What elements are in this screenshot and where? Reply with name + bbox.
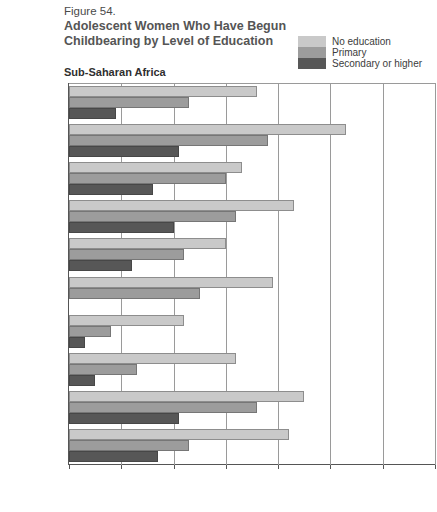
- bar-burkina-faso-secondary: [69, 108, 116, 119]
- bar-group-ghana: Ghana: [69, 159, 435, 197]
- bar-group-niger: Niger: [69, 274, 435, 312]
- bar-burkina-faso-no-education: [69, 86, 257, 97]
- legend-swatch-no-education: [298, 36, 326, 47]
- chart-title-line-1: Adolescent Women Who Have Begun: [64, 19, 364, 34]
- region-heading: Sub-Saharan Africa: [64, 66, 166, 78]
- chart-legend: No educationPrimarySecondary or higher: [298, 36, 422, 69]
- bar-group-zimbabwe: Zimbabwe: [69, 427, 435, 465]
- bar-zimbabwe-no-education: [69, 429, 289, 440]
- x-tick-mark-0: [69, 465, 70, 469]
- bar-niger-no-education: [69, 277, 273, 288]
- x-tick-mark-10: [121, 465, 122, 469]
- chart-plot-area: 010203040506070Burkina FasoCameroonGhana…: [68, 83, 436, 465]
- bar-zimbabwe-primary: [69, 440, 189, 451]
- bar-senegal-primary: [69, 364, 137, 375]
- bar-group-kenya: Kenya: [69, 236, 435, 274]
- legend-label-column: No educationPrimarySecondary or higher: [332, 36, 422, 69]
- bar-senegal-secondary: [69, 375, 95, 386]
- bar-zambia-primary: [69, 402, 257, 413]
- figure-number: Figure 54.: [64, 4, 364, 18]
- bar-malawi-secondary: [69, 222, 174, 233]
- bar-malawi-no-education: [69, 200, 294, 211]
- x-tick-mark-60: [383, 465, 384, 469]
- bar-ghana-no-education: [69, 162, 242, 173]
- bar-cameroon-primary: [69, 135, 268, 146]
- bar-ghana-primary: [69, 173, 226, 184]
- bar-kenya-no-education: [69, 238, 226, 249]
- x-tick-mark-50: [330, 465, 331, 469]
- bar-group-senegal: Senegal: [69, 350, 435, 388]
- legend-swatch-primary: [298, 47, 326, 58]
- bar-ghana-secondary: [69, 184, 153, 195]
- legend-label-2: Secondary or higher: [332, 58, 422, 69]
- bar-zambia-no-education: [69, 391, 304, 402]
- bar-malawi-primary: [69, 211, 236, 222]
- bar-group-burkina-faso: Burkina Faso: [69, 83, 435, 121]
- bar-zambia-secondary: [69, 413, 179, 424]
- bar-niger-primary: [69, 288, 200, 299]
- bar-rwanda-no-education: [69, 315, 184, 326]
- legend-label-1: Primary: [332, 47, 422, 58]
- bar-rwanda-primary: [69, 326, 111, 337]
- bar-zimbabwe-secondary: [69, 451, 158, 462]
- x-tick-mark-30: [226, 465, 227, 469]
- x-tick-mark-40: [278, 465, 279, 469]
- legend-label-0: No education: [332, 36, 422, 47]
- bar-senegal-no-education: [69, 353, 236, 364]
- legend-swatch-secondary: [298, 58, 326, 69]
- bar-kenya-primary: [69, 249, 184, 260]
- bar-group-malawi: Malawi: [69, 198, 435, 236]
- bar-cameroon-no-education: [69, 124, 346, 135]
- x-tick-mark-20: [174, 465, 175, 469]
- bar-kenya-secondary: [69, 260, 132, 271]
- bar-burkina-faso-primary: [69, 97, 189, 108]
- bar-cameroon-secondary: [69, 146, 179, 157]
- legend-swatch-column: [298, 36, 326, 69]
- bar-group-rwanda: Rwanda: [69, 312, 435, 350]
- bar-rwanda-secondary: [69, 337, 85, 348]
- x-tick-mark-70: [435, 465, 436, 469]
- bar-group-zambia: Zambia: [69, 389, 435, 427]
- bar-group-cameroon: Cameroon: [69, 121, 435, 159]
